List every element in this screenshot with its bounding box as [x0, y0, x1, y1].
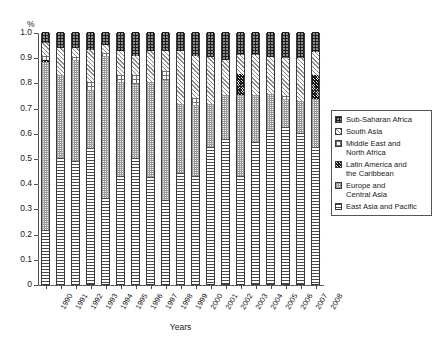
x-axis-tick-label: 2004	[268, 292, 284, 311]
x-axis-tick-label: 1998	[178, 292, 194, 311]
bar-segment	[147, 32, 154, 51]
bar-segment	[147, 177, 154, 284]
bar-segment	[252, 32, 259, 55]
bar-segment	[102, 32, 109, 45]
bar-2005	[266, 33, 275, 285]
bar-segment	[237, 74, 244, 95]
legend-label: Europe andCentral Asia	[346, 181, 387, 199]
bar-segment	[267, 94, 274, 131]
x-axis-tick	[241, 285, 242, 289]
bar-segment	[282, 32, 289, 58]
bar-segment	[222, 95, 229, 139]
bar-segment	[117, 82, 124, 175]
x-axis-tick-label: 1990	[58, 292, 74, 311]
bar-segment	[42, 43, 49, 56]
legend-label: Middle East andNorth Africa	[346, 139, 400, 157]
bar-1990	[41, 33, 50, 285]
bar-segment	[267, 32, 274, 57]
y-axis-tick-label: 0.2	[20, 229, 32, 239]
bars-container	[38, 33, 323, 285]
bar-segment	[162, 80, 169, 200]
x-axis-tick	[151, 285, 152, 289]
bar-segment	[222, 60, 229, 95]
bar-segment	[177, 104, 184, 173]
legend-swatch-icon	[335, 203, 342, 210]
bar-segment	[42, 62, 49, 230]
bar-segment	[117, 51, 124, 75]
legend-item: South Asia	[335, 127, 428, 136]
bar-1997	[146, 33, 155, 285]
y-axis-tick-label: 0.6	[20, 128, 32, 138]
tick-mark	[34, 285, 38, 286]
y-axis-tick-label: 0.5	[20, 153, 32, 163]
bar-segment	[57, 32, 64, 48]
bar-segment	[102, 45, 109, 54]
x-axis-tick-label: 1996	[148, 292, 164, 311]
bar-1991	[56, 33, 65, 285]
bar-2001	[206, 33, 215, 285]
bar-2008	[311, 33, 320, 285]
legend-swatch-icon	[335, 182, 342, 189]
bar-segment	[42, 60, 49, 63]
x-axis-tick-label: 2002	[238, 292, 254, 311]
x-axis-tick	[46, 285, 47, 289]
bar-segment	[252, 95, 259, 142]
x-axis-tick-label: 2008	[328, 292, 344, 311]
x-axis-tick-label: 2005	[283, 292, 299, 311]
y-axis-tick-label: 0.1	[20, 254, 32, 264]
x-axis-tick-label: 2007	[313, 292, 329, 311]
bar-segment	[42, 56, 49, 60]
x-axis-tick	[166, 285, 167, 289]
bar-segment	[102, 53, 109, 56]
chart-legend: Sub-Saharan AfricaSouth AsiaMiddle East …	[331, 110, 432, 216]
bar-segment	[282, 58, 289, 96]
bar-segment	[177, 51, 184, 104]
x-axis-tick	[61, 285, 62, 289]
bar-segment	[312, 99, 319, 147]
bar-1994	[101, 33, 110, 285]
bar-segment	[72, 32, 79, 48]
bar-segment	[87, 32, 94, 50]
x-axis-tick	[91, 285, 92, 289]
bar-segment	[132, 84, 139, 158]
bar-1993	[86, 33, 95, 285]
bar-segment	[282, 99, 289, 127]
bar-segment	[282, 127, 289, 285]
y-axis-tick-label: 1.0	[20, 27, 32, 37]
bar-segment	[162, 200, 169, 284]
bar-segment	[87, 90, 94, 148]
legend-swatch-icon	[335, 140, 342, 147]
bar-segment	[132, 75, 139, 84]
x-axis-tick-label: 1997	[163, 292, 179, 311]
x-axis-tick	[76, 285, 77, 289]
bar-segment	[42, 230, 49, 284]
x-axis-tick-label: 1991	[73, 292, 89, 311]
bar-segment	[297, 101, 304, 133]
bar-segment	[117, 32, 124, 51]
x-axis-tick	[211, 285, 212, 289]
x-axis-tick-label: 2001	[223, 292, 239, 311]
x-axis-tick-label: 1995	[133, 292, 149, 311]
bar-segment	[132, 32, 139, 56]
bar-segment	[72, 60, 79, 161]
bar-segment	[297, 58, 304, 101]
legend-swatch-icon	[335, 128, 342, 135]
bar-segment	[147, 51, 154, 83]
x-axis-tick-label: 1993	[103, 292, 119, 311]
bar-segment	[207, 32, 214, 57]
bar-segment	[222, 32, 229, 60]
y-axis-tick-label: 0.8	[20, 77, 32, 87]
bar-2003	[236, 33, 245, 285]
bar-segment	[42, 32, 49, 43]
bar-segment	[207, 57, 214, 104]
bar-segment	[192, 32, 199, 56]
bar-segment	[252, 55, 259, 95]
x-axis-tick	[136, 285, 137, 289]
bar-segment	[102, 56, 109, 198]
stacked-bar-chart: % 1.00.90.80.70.60.50.40.30.20.10 199019…	[0, 0, 440, 355]
legend-label: Latin America andthe Caribbean	[346, 160, 407, 178]
bar-2004	[251, 33, 260, 285]
x-axis-tick	[301, 285, 302, 289]
bar-segment	[237, 95, 244, 176]
bar-segment	[57, 48, 64, 74]
